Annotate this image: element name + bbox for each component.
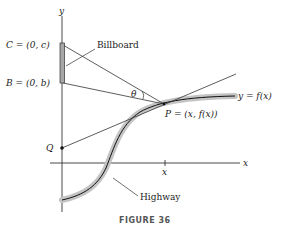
label-P: P = (x, f(x)) — [164, 109, 218, 119]
billboard — [60, 43, 65, 83]
x-tick-label: x — [162, 167, 167, 177]
figure-diagram: y x x C = (0, c) B = (0, b) Q P = (x, f(… — [0, 0, 284, 233]
label-theta: θ — [131, 89, 137, 99]
label-billboard: Billboard — [97, 40, 139, 50]
point-P — [163, 103, 166, 106]
point-Q — [60, 146, 64, 150]
label-C: C = (0, c) — [6, 40, 50, 50]
x-axis-label: x — [243, 158, 248, 168]
line-B-to-P — [63, 83, 164, 104]
line-C-to-P — [63, 45, 164, 104]
label-curve: y = f(x) — [237, 91, 272, 101]
highway-leader — [113, 178, 138, 196]
y-axis-label: y — [58, 6, 65, 16]
label-highway: Highway — [140, 192, 181, 202]
label-B: B = (0, b) — [5, 78, 51, 88]
label-Q: Q — [46, 143, 54, 153]
billboard-leader — [66, 49, 95, 66]
figure-caption: FIGURE 36 — [119, 216, 171, 225]
